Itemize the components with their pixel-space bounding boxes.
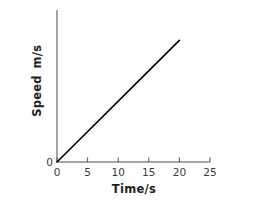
x-axis-tick-label: 25	[203, 167, 216, 178]
x-axis-tick-label: 15	[142, 167, 155, 178]
y-axis-tick-label: 0	[46, 157, 53, 168]
x-axis-tick-label: 10	[112, 167, 125, 178]
data-series-group	[57, 40, 179, 162]
x-axis-tick-label: 5	[84, 167, 91, 178]
speed-time-graph: Speed m/s Time/s 0510152025 0	[0, 0, 262, 208]
x-axis-tick-marks	[57, 158, 210, 163]
x-axis-tick-label: 20	[173, 167, 186, 178]
data-line-speed	[57, 40, 179, 162]
plot-canvas	[0, 0, 262, 208]
x-axis-tick-label: 0	[54, 167, 61, 178]
